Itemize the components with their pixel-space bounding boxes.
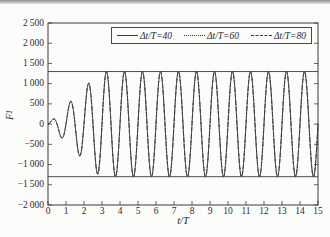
x-tick-label: 6 (146, 206, 166, 217)
figure: F1 t/T Δt/T=40 Δt/T=60 Δt/T=80 2 5002 00… (0, 0, 330, 237)
x-tick-label: 0 (38, 206, 58, 217)
dotted-line-sample-icon (184, 35, 205, 36)
x-tick-label: 14 (290, 206, 310, 217)
legend-label-dt60: Δt/T=60 (207, 31, 239, 41)
plot-frame (48, 23, 318, 205)
legend: Δt/T=40 Δt/T=60 Δt/T=80 (111, 27, 312, 44)
y-tick-label: 500 (0, 98, 44, 109)
x-tick-label: 10 (218, 206, 238, 217)
y-tick-label: 1 500 (0, 58, 44, 69)
y-axis-label-sub: 1 (5, 110, 14, 114)
series-line-solid (48, 72, 318, 177)
dashed-line-sample-icon (251, 35, 272, 36)
y-tick-label: −1 000 (0, 159, 44, 170)
y-tick-label: −500 (0, 139, 44, 150)
y-tick-label: 2 000 (0, 38, 44, 49)
solid-line-sample-icon (117, 35, 138, 36)
x-tick-label: 12 (254, 206, 274, 217)
x-tick-label: 4 (110, 206, 130, 217)
legend-entry-dt40: Δt/T=40 (117, 31, 172, 41)
x-tick-label: 15 (308, 206, 328, 217)
x-tick-label: 8 (182, 206, 202, 217)
y-tick-label: 2 500 (0, 18, 44, 29)
y-tick-label: 0 (0, 119, 44, 130)
x-tick-label: 1 (56, 206, 76, 217)
y-tick-label: −1 500 (0, 179, 44, 190)
x-tick-label: 13 (272, 206, 292, 217)
y-tick-label: 1 000 (0, 78, 44, 89)
x-tick-label: 7 (164, 206, 184, 217)
x-tick-label: 5 (128, 206, 148, 217)
x-tick-label: 2 (74, 206, 94, 217)
x-tick-label: 11 (236, 206, 256, 217)
legend-label-dt40: Δt/T=40 (140, 31, 172, 41)
legend-entry-dt80: Δt/T=80 (251, 31, 306, 41)
legend-label-dt80: Δt/T=80 (274, 31, 306, 41)
legend-entry-dt60: Δt/T=60 (184, 31, 239, 41)
x-tick-label: 3 (92, 206, 112, 217)
x-tick-label: 9 (200, 206, 220, 217)
